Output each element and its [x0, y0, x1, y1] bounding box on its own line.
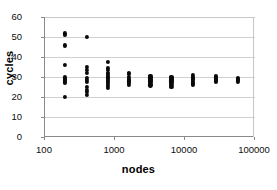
data-point [85, 80, 89, 84]
x-tick-label-100: 100 [36, 145, 52, 155]
data-point [106, 86, 110, 90]
y-tick-label-0: 0 [0, 132, 22, 142]
gridline-y-40 [45, 57, 255, 58]
data-point [62, 95, 66, 99]
data-point [236, 79, 240, 83]
data-point [148, 83, 152, 87]
data-point [85, 71, 89, 75]
data-point [106, 60, 110, 64]
y-tick-label-10: 10 [0, 112, 22, 122]
x-tick-mark-100000 [254, 137, 255, 140]
data-point [85, 35, 89, 39]
y-tick-label-60: 60 [0, 12, 22, 22]
x-tick-label-100000: 100000 [238, 145, 270, 155]
x-axis-title: nodes [0, 163, 277, 175]
data-point [62, 81, 66, 85]
data-point [127, 83, 131, 87]
x-tick-label-10000: 10000 [171, 145, 197, 155]
data-point [62, 43, 66, 47]
data-point [169, 85, 173, 89]
x-tick-mark-10000 [184, 137, 185, 140]
chart-root: 0102030405060 100100010000100000 nodes c… [0, 0, 277, 190]
data-point [62, 63, 66, 67]
gridline-y-20 [45, 97, 255, 98]
plot-area [44, 17, 254, 137]
data-point [190, 83, 194, 87]
y-axis-title: cycles [3, 38, 15, 98]
gridline-y-50 [45, 37, 255, 38]
data-point [214, 80, 218, 84]
x-tick-mark-1000 [114, 137, 115, 140]
x-tick-mark-100 [44, 137, 45, 140]
x-tick-label-1000: 1000 [103, 145, 124, 155]
gridline-y-60 [45, 17, 255, 18]
gridline-y-10 [45, 117, 255, 118]
plot-right-border [253, 17, 254, 137]
